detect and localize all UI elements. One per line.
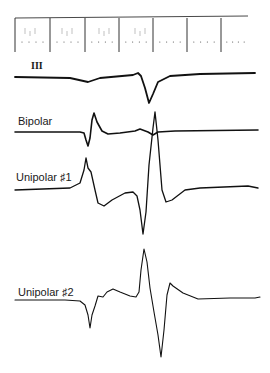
bipolar-label: Bipolar — [18, 115, 52, 127]
lead-iii-label: III — [31, 60, 43, 71]
unipolar-1-label: Unipolar ♯1 — [16, 171, 72, 183]
trace-unipolar-2 — [15, 249, 260, 357]
unipolar-2-label: Unipolar ♯2 — [18, 286, 74, 298]
trace-iii — [15, 73, 255, 103]
timing-marker-bar — [15, 16, 248, 52]
electrogram-figure — [0, 0, 270, 373]
